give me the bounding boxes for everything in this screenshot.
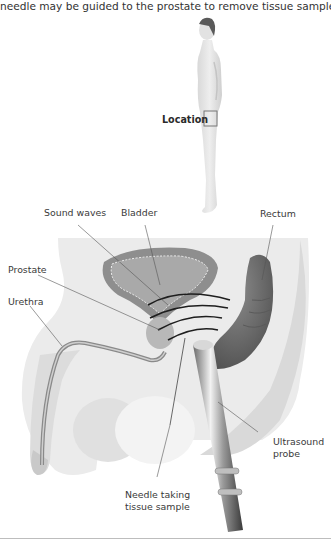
- label-ultrasound-probe-line1: Ultrasound: [273, 436, 324, 447]
- prostate: [146, 317, 174, 349]
- bottom-divider: [0, 538, 331, 539]
- label-bladder: Bladder: [121, 207, 157, 218]
- label-rectum: Rectum: [260, 208, 296, 219]
- label-needle-line1: Needle taking: [125, 489, 190, 500]
- label-needle-line2: tissue sample: [125, 501, 190, 512]
- location-label: Location: [162, 114, 208, 125]
- label-ultrasound-probe-line2: probe: [273, 448, 300, 459]
- label-sound-waves: Sound waves: [44, 207, 106, 218]
- label-urethra: Urethra: [8, 296, 44, 307]
- prostate-biopsy-illustration: [0, 0, 331, 545]
- label-prostate: Prostate: [8, 264, 47, 275]
